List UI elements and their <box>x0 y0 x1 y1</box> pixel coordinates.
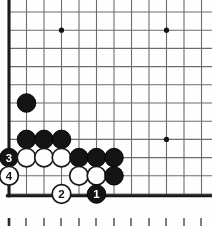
move-number-label: 2 <box>58 188 64 200</box>
black-stone[interactable] <box>105 167 124 186</box>
black-stone-disc[interactable] <box>17 130 36 149</box>
white-stone[interactable] <box>70 167 89 186</box>
star-point <box>59 28 64 33</box>
white-stone-disc[interactable] <box>35 148 54 167</box>
white-stone-disc[interactable] <box>52 148 71 167</box>
black-stone[interactable] <box>70 148 89 167</box>
white-stone[interactable] <box>87 167 106 186</box>
white-stone[interactable]: 4 <box>0 167 18 186</box>
go-board-svg[interactable]: 3421 <box>0 0 212 226</box>
white-stone[interactable] <box>52 148 71 167</box>
black-stone[interactable]: 3 <box>0 148 18 167</box>
white-stone[interactable]: 2 <box>52 185 71 204</box>
black-stone[interactable] <box>52 130 71 149</box>
star-point <box>164 137 169 142</box>
black-stone-disc[interactable] <box>105 148 124 167</box>
black-stone[interactable]: 1 <box>87 185 106 204</box>
black-stone-disc[interactable] <box>52 130 71 149</box>
black-stone[interactable] <box>105 148 124 167</box>
white-stone-disc[interactable] <box>17 148 36 167</box>
go-diagram-figure: 3421 <box>0 0 212 226</box>
black-stone-disc[interactable] <box>105 167 124 186</box>
black-stone-disc[interactable] <box>70 148 89 167</box>
star-point <box>164 28 169 33</box>
white-stone-disc[interactable] <box>87 167 106 186</box>
black-stone[interactable] <box>35 130 54 149</box>
move-number-label: 1 <box>93 188 100 200</box>
black-stone[interactable] <box>17 130 36 149</box>
black-stone[interactable] <box>17 94 36 113</box>
white-stone-disc[interactable] <box>70 167 89 186</box>
black-stone-disc[interactable] <box>35 130 54 149</box>
black-stone-disc[interactable] <box>17 94 36 113</box>
move-number-label: 4 <box>6 170 13 182</box>
white-stone[interactable] <box>35 148 54 167</box>
move-number-label: 3 <box>6 152 12 164</box>
white-stone[interactable] <box>17 148 36 167</box>
black-stone-disc[interactable] <box>87 148 106 167</box>
black-stone[interactable] <box>87 148 106 167</box>
